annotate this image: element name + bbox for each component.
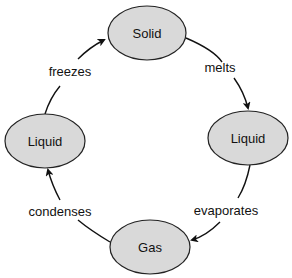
node-liquid-left: Liquid <box>5 114 85 168</box>
node-solid: Solid <box>108 6 186 60</box>
node-label-gas: Gas <box>138 240 162 255</box>
node-label-solid: Solid <box>133 26 162 41</box>
node-label-liquid-left: Liquid <box>28 134 63 149</box>
node-label-liquid-right: Liquid <box>231 131 266 146</box>
states-of-matter-cycle-diagram: melts evaporates condenses freezes Solid… <box>0 0 292 278</box>
node-gas: Gas <box>110 220 190 274</box>
node-liquid-right: Liquid <box>208 111 288 165</box>
edge-label-evaporates: evaporates <box>194 203 259 218</box>
edge-label-condenses: condenses <box>29 204 92 219</box>
edge-label-melts: melts <box>204 60 236 75</box>
edge-label-freezes: freezes <box>49 64 92 79</box>
